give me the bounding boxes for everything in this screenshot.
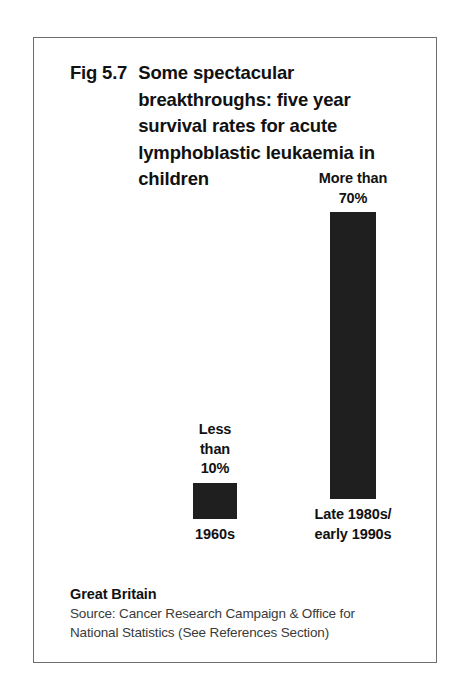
source-line-2: National Statistics (See References Sect…	[70, 624, 410, 643]
source-line-1: Source: Cancer Research Campaign & Offic…	[70, 605, 410, 624]
figure-frame: Fig 5.7 Some spectacular breakthroughs: …	[33, 37, 437, 663]
figure-footer: Great Britain Source: Cancer Research Ca…	[70, 584, 410, 642]
bar-category-label: Late 1980s/ early 1990s	[263, 505, 443, 544]
region-label: Great Britain	[70, 584, 410, 604]
bar-1960s	[193, 483, 237, 519]
bar-group-late-1980s-early-1990s: More than 70% Late 1980s/ early 1990s	[263, 169, 443, 544]
bar-value-label: More than 70%	[263, 169, 443, 208]
bar-late-1980s-early-1990s	[330, 212, 376, 499]
chart-plot-area: Less than 10% 1960s More than 70% Late 1…	[34, 38, 436, 662]
